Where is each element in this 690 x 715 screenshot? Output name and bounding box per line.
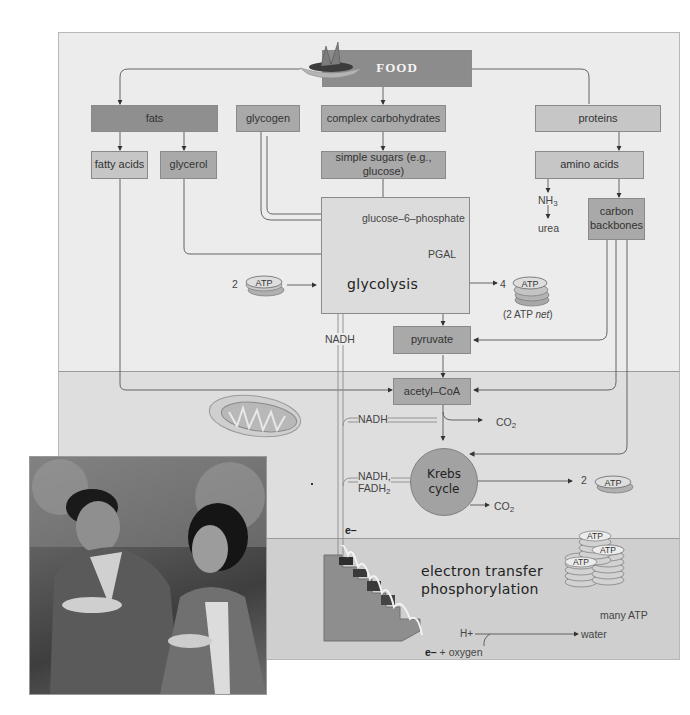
atp-out-count: 4 xyxy=(500,278,506,290)
glycerol-label: glycerol xyxy=(170,158,208,172)
carbon-backbones-label-1: carbon xyxy=(600,205,634,217)
glycogen-box: glycogen xyxy=(236,105,300,132)
fatty-acids-box: fatty acids xyxy=(91,151,148,179)
simple-sugars-box: simple sugars (e.g., glucose) xyxy=(321,151,446,179)
pyruvate-box: pyruvate xyxy=(393,326,471,354)
salad-bowl-icon xyxy=(296,38,366,82)
electron-label-top: e– xyxy=(345,524,357,536)
glycolysis-label: glycolysis xyxy=(347,276,418,292)
many-atp-label: many ATP xyxy=(600,609,648,621)
cycle-label: cycle xyxy=(428,482,459,497)
glucose-6-phosphate-label: glucose–6–phosphate xyxy=(362,212,465,224)
krebs-cycle-circle: Krebs cycle xyxy=(410,448,478,516)
glycerol-box: glycerol xyxy=(160,151,217,179)
carbon-backbones-label-2: backbones xyxy=(590,219,643,231)
nadh-glycolysis-label: NADH xyxy=(324,333,356,345)
complex-carbohydrates-label: complex carbohydrates xyxy=(327,112,441,126)
co2-label-1: CO2 xyxy=(496,416,516,430)
glycogen-label: glycogen xyxy=(246,112,290,126)
amino-acids-label: amino acids xyxy=(560,158,619,172)
mitochondrion-icon xyxy=(207,390,303,446)
svg-text:ATP: ATP xyxy=(573,557,589,567)
net-atp-label: (2 ATP net) xyxy=(503,309,553,320)
fats-box: fats xyxy=(91,105,218,132)
electron-transfer-title: electron transferphosphorylation xyxy=(421,563,543,598)
fats-label: fats xyxy=(146,112,164,126)
proteins-box: proteins xyxy=(535,105,661,132)
urea-label: urea xyxy=(538,222,559,234)
svg-text:ATP: ATP xyxy=(600,545,616,555)
atp-coin-stack-icon: ATP xyxy=(510,273,552,307)
ammonia-label: NH3 xyxy=(538,194,558,208)
atp-coin-stacks-many-icon: ATP ATP ATP xyxy=(555,530,635,596)
carbon-backbones-box: carbonbackbones xyxy=(588,198,645,240)
svg-text:ATP: ATP xyxy=(522,279,539,289)
svg-text:ATP: ATP xyxy=(605,478,622,488)
pyruvate-label: pyruvate xyxy=(411,333,453,347)
atp-coin-stack-icon: ATP xyxy=(593,472,635,498)
complex-carbohydrates-box: complex carbohydrates xyxy=(321,105,446,132)
h-plus-label: H+ xyxy=(460,628,473,639)
pgal-label: PGAL xyxy=(428,248,456,260)
simple-sugars-label: simple sugars (e.g., glucose) xyxy=(322,151,445,179)
stray-dot xyxy=(311,483,313,485)
co2-label-2: CO2 xyxy=(494,500,514,514)
krebs-atp-count: 2 xyxy=(581,474,587,486)
nadh-fadh2-label: NADH,FADH2 xyxy=(358,470,391,496)
atp-coin-stack-icon: ATP xyxy=(244,272,286,298)
water-label: water xyxy=(581,628,607,640)
photo-silhouettes xyxy=(30,457,266,694)
electron-oxygen-label: e– + oxygen xyxy=(425,646,483,658)
people-eating-photo xyxy=(29,456,267,695)
acetyl-coa-box: acetyl–CoA xyxy=(393,378,471,405)
amino-acids-box: amino acids xyxy=(535,151,644,179)
nadh-krebs-label: NADH xyxy=(358,413,388,425)
acetyl-coa-label: acetyl–CoA xyxy=(404,385,460,399)
electron-staircase-icon xyxy=(322,545,430,655)
proteins-label: proteins xyxy=(578,112,617,126)
svg-text:ATP: ATP xyxy=(587,531,603,541)
krebs-label: Krebs xyxy=(427,467,461,482)
svg-text:ATP: ATP xyxy=(256,278,273,288)
atp-in-count: 2 xyxy=(232,278,238,290)
food-label: FOOD xyxy=(376,60,418,76)
fatty-acids-label: fatty acids xyxy=(95,158,145,172)
